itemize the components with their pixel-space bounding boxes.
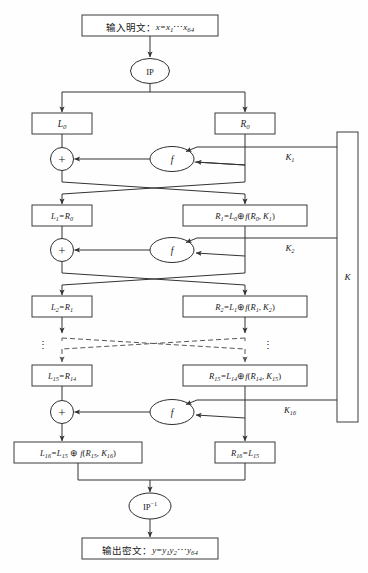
key-box-group: K <box>337 132 358 422</box>
edge-ip-split <box>62 84 245 113</box>
xor-2-symbol: + <box>58 243 65 258</box>
round-2-right-box-group: R2=L1⊕f(R1, K2) <box>183 296 307 317</box>
round-1-left-box-group: L1=R0 <box>32 205 92 226</box>
edge-k16-to-f16 <box>186 400 337 405</box>
round-16-left-label: L16=L15 ⊕ f(R15, K16) <box>39 448 116 459</box>
subkey-16-label: K16 <box>283 405 297 416</box>
xor-2-group: + <box>51 239 74 262</box>
round-15-left-box-group: L15=R14 <box>32 365 92 386</box>
round-15-right-box-group: R15=L14⊕f(R14, K15) <box>183 365 307 386</box>
edge-k1-to-f1 <box>186 147 337 152</box>
round-16-left-box-group: L16=L15 ⊕ f(R15, K16) <box>14 442 142 463</box>
crossover-1 <box>62 165 245 204</box>
f-16-group: f <box>150 400 194 425</box>
input-plaintext-label: 输入明文：x=x1⋯x64 <box>106 21 195 32</box>
des-flowchart-svg: 输入明文：x=x1⋯x64 IP L0 R0 <box>0 0 368 573</box>
edge-r0-to-f1-arrow <box>196 162 245 165</box>
xor-16-group: + <box>51 401 74 424</box>
ellipsis-section: ⋮ ⋮ <box>38 317 273 362</box>
output-ciphertext-label: 输出密文：y=y1y2⋯y64 <box>102 544 198 555</box>
ip-node-label: IP <box>146 67 154 77</box>
ip-node-group: IP <box>131 59 170 84</box>
ellipsis-dots-right: ⋮ <box>263 339 273 350</box>
round-2-left-label: L2=R1 <box>50 302 73 313</box>
output-ciphertext-group: 输出密文：y=y1y2⋯y64 <box>82 538 218 559</box>
round-1-right-box-group: R1=L0⊕f(R0, K1) <box>183 205 307 226</box>
round-0-left-box-group: L0 <box>32 113 92 134</box>
round-0-right-box-group: R0 <box>215 113 275 134</box>
f-2-group: f <box>150 238 194 263</box>
round-2-right-label: R2=L1⊕f(R1, K2) <box>214 302 275 313</box>
input-plaintext-group: 输入明文：x=x1⋯x64 <box>82 15 218 36</box>
edge-merge-to-ip-inverse <box>78 463 245 492</box>
round-2-left-box-group: L2=R1 <box>32 296 92 317</box>
xor-16-symbol: + <box>58 405 65 420</box>
edge-r15-to-f16 <box>196 386 245 418</box>
xor-1-symbol: + <box>58 152 65 167</box>
f-1-group: f <box>150 147 194 172</box>
ellipsis-dots-left: ⋮ <box>38 339 48 350</box>
xor-1-group: + <box>51 148 74 171</box>
subkey-2-label: K2 <box>284 243 295 254</box>
edge-r0-to-f1 <box>195 134 246 165</box>
edge-k2-to-f2 <box>186 238 337 243</box>
key-box-label: K <box>343 272 351 282</box>
subkey-1-label: K1 <box>284 152 294 163</box>
edge-r1-to-f2 <box>196 226 245 256</box>
crossover-2 <box>62 256 245 295</box>
des-flowchart-page: 输入明文：x=x1⋯x64 IP L0 R0 <box>0 0 368 573</box>
final-straight-edges <box>62 418 245 441</box>
round-16-right-box-group: R16=L15 <box>215 442 275 463</box>
round-1-right-label: R1=L0⊕f(R0, K1) <box>214 211 275 222</box>
ip-inverse-node-group: IP−1 <box>129 493 171 519</box>
